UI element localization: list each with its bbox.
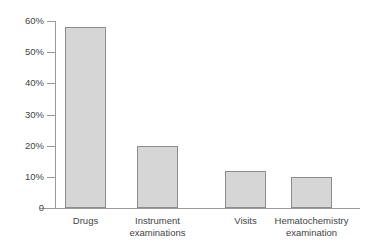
y-axis-tick	[47, 83, 55, 84]
y-axis-tick	[47, 146, 55, 147]
bar	[65, 27, 106, 208]
y-axis-tick-label: 10%	[0, 172, 44, 182]
x-axis-category-label: Instrument examinations	[108, 215, 208, 239]
x-axis-category-label: Hematochemistry examination	[257, 215, 367, 239]
y-axis-tick-label: 60%	[0, 16, 44, 26]
y-axis-tick-label: 30%	[0, 110, 44, 120]
x-axis-line	[40, 208, 360, 209]
bar	[137, 146, 178, 208]
y-axis-tick-label: 40%	[0, 78, 44, 88]
bar	[291, 177, 332, 208]
y-axis-tick	[47, 52, 55, 53]
bars-layer	[55, 14, 360, 208]
bar	[225, 171, 266, 208]
y-axis-tick	[47, 115, 55, 116]
y-axis-tick-label: 0	[0, 203, 44, 213]
y-axis-tick	[47, 21, 55, 22]
bar-chart: 010%20%30%40%50%60% DrugsInstrument exam…	[0, 0, 370, 251]
y-axis-tick	[47, 177, 55, 178]
y-axis-tick-label: 50%	[0, 47, 44, 57]
y-axis-tick-label: 20%	[0, 141, 44, 151]
y-axis-tick	[47, 208, 55, 209]
